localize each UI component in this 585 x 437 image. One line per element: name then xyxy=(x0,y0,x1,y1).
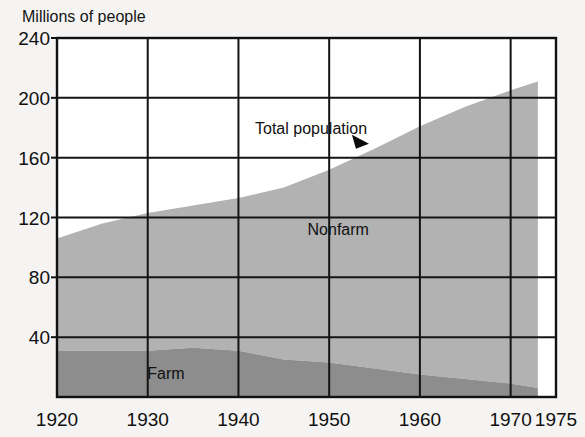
y-axis-tick-label: 80 xyxy=(29,267,50,288)
x-axis-tick-label: 1920 xyxy=(36,409,78,430)
x-axis-tick-label: 1950 xyxy=(308,409,350,430)
y-axis-unit-caption: Millions of people xyxy=(22,8,146,25)
series-inline-label-farm: Farm xyxy=(147,365,184,382)
y-axis-tick-label: 40 xyxy=(29,327,50,348)
series-inline-label-nonfarm: Nonfarm xyxy=(308,221,369,238)
population-area-chart: Millions of people 4080120160200240 1920… xyxy=(0,0,585,437)
y-axis-tick-label: 160 xyxy=(18,148,50,169)
x-axis-tick-label: 1940 xyxy=(217,409,259,430)
x-axis-tick-label: 1975 xyxy=(535,409,577,430)
total-population-annotation: Total population xyxy=(255,120,367,137)
x-axis-tick-label: 1960 xyxy=(399,409,441,430)
x-axis-tick-label: 1930 xyxy=(127,409,169,430)
y-axis-tick-label: 240 xyxy=(18,28,50,49)
chart-container: Millions of people 4080120160200240 1920… xyxy=(0,0,585,437)
x-axis-tick-label: 1970 xyxy=(489,409,531,430)
y-axis-tick-label: 200 xyxy=(18,88,50,109)
y-axis-tick-label: 120 xyxy=(18,208,50,229)
